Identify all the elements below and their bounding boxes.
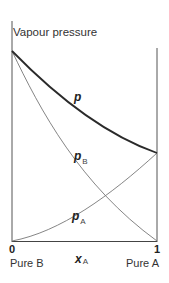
vapour-pressure-plot [0,0,169,283]
label-p-total-text: p [74,90,81,104]
x-axis-label: xA [75,253,88,265]
label-pB-sub: B [82,157,87,166]
x-axis-variable-sub: A [83,257,88,266]
y-axis-title: Vapour pressure [13,27,97,39]
label-pB: pB [74,150,88,162]
x-tick-0: 0 [9,244,15,255]
x-tick-1: 1 [154,244,160,255]
label-pure-a: Pure A [126,258,159,269]
label-pA: pA [72,210,86,222]
label-pA-text: p [72,209,79,223]
x-axis-variable: x [75,252,82,266]
label-p-total: p [74,91,81,103]
label-pB-text: p [74,149,81,163]
curve-p-total [12,51,157,153]
curve-pA [12,153,157,241]
label-pure-b: Pure B [10,258,44,269]
label-pA-sub: A [80,217,85,226]
